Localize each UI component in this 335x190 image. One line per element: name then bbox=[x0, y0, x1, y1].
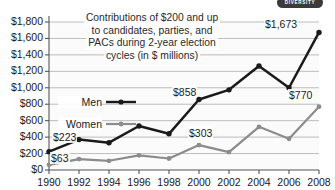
data-point-men bbox=[106, 140, 111, 145]
data-label-men-2000: $858 bbox=[172, 86, 197, 98]
legend-label-men: Men bbox=[58, 96, 102, 108]
y-axis-label: $0 bbox=[31, 163, 43, 175]
y-axis-label: $600 bbox=[20, 114, 43, 126]
caption-line-4: cycles (in $ millions) bbox=[104, 50, 200, 63]
legend-item-men: Men bbox=[58, 96, 137, 108]
y-axis-label: $800 bbox=[20, 97, 43, 109]
x-axis-label: 2006 bbox=[272, 176, 306, 188]
chart-caption: Contributions of $200 and up to candidat… bbox=[60, 12, 244, 62]
data-point-women bbox=[257, 124, 262, 129]
data-point-women bbox=[77, 157, 82, 162]
x-axis-label: 1996 bbox=[122, 176, 156, 188]
caption-line-1: Contributions of $200 and up bbox=[84, 12, 220, 25]
data-label-women-2008: $770 bbox=[288, 89, 313, 101]
data-label-women-2000: $303 bbox=[188, 127, 213, 139]
legend-swatch-men bbox=[105, 97, 137, 107]
y-axis-label: $1,200 bbox=[11, 64, 43, 76]
data-point-men bbox=[136, 123, 141, 128]
data-point-men bbox=[256, 63, 261, 68]
y-axis-label: $1,600 bbox=[11, 31, 43, 43]
y-axis-label: $1,400 bbox=[11, 48, 43, 60]
x-axis-label: 1990 bbox=[32, 176, 66, 188]
diversity-badge: DIVERSITY bbox=[277, 0, 323, 8]
x-axis-label: 2000 bbox=[182, 176, 216, 188]
data-label-men-1990: $223 bbox=[52, 131, 77, 143]
data-label-women-1990: $63 bbox=[50, 152, 70, 164]
y-axis-label: $1,800 bbox=[11, 15, 43, 27]
x-axis-label: 1994 bbox=[92, 176, 126, 188]
x-axis-label: 2002 bbox=[212, 176, 246, 188]
chart-legend: Men Women bbox=[58, 96, 137, 130]
legend-item-women: Women bbox=[58, 118, 137, 130]
legend-label-women: Women bbox=[58, 118, 102, 130]
data-point-women bbox=[137, 153, 142, 158]
data-point-men bbox=[226, 87, 231, 92]
x-axis-label: 2008 bbox=[302, 176, 335, 188]
data-point-women bbox=[287, 136, 292, 141]
y-axis-label: $200 bbox=[20, 147, 43, 159]
data-point-women bbox=[107, 158, 112, 163]
data-point-men bbox=[166, 131, 171, 136]
data-point-women bbox=[227, 150, 232, 155]
data-point-women bbox=[197, 143, 202, 148]
y-axis-label: $1,000 bbox=[11, 81, 43, 93]
data-point-men bbox=[316, 30, 321, 35]
legend-swatch-women bbox=[105, 119, 137, 129]
data-label-men-2008: $1,673 bbox=[264, 18, 298, 30]
y-axis-label: $400 bbox=[20, 130, 43, 142]
x-axis-label: 1998 bbox=[152, 176, 186, 188]
data-point-women bbox=[317, 104, 322, 109]
x-axis-label: 1992 bbox=[62, 176, 96, 188]
x-axis-label: 2004 bbox=[242, 176, 276, 188]
caption-line-3: PACs during 2-year election bbox=[86, 37, 217, 50]
data-point-women bbox=[167, 156, 172, 161]
caption-line-2: to candidates, parties, and bbox=[90, 25, 215, 38]
